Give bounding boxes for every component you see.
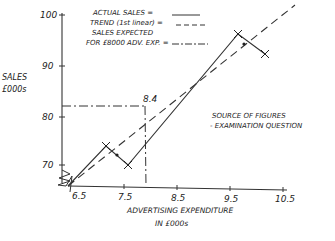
legend-actual-label: ACTUAL SALES = bbox=[92, 9, 153, 17]
hand-drawn-sales-chart: 100 90 80 70 6.5 7.5 8.5 9.5 10.5 SALES … bbox=[0, 0, 335, 241]
legend: ACTUAL SALES = TREND (1st linear) = SALE… bbox=[86, 9, 208, 47]
x-tick-label: 9.5 bbox=[224, 194, 239, 204]
x-tick-label: 10.5 bbox=[275, 194, 295, 204]
source-note: - EXAMINATION QUESTION bbox=[210, 122, 303, 130]
y-tick-label: 70 bbox=[42, 160, 54, 170]
y-tick-label: 90 bbox=[42, 61, 54, 71]
trend-midpoint bbox=[242, 42, 245, 45]
y-axis-title: SALES bbox=[2, 73, 27, 82]
y-axis-title: £000s bbox=[2, 85, 27, 94]
axis-break-icon bbox=[58, 170, 72, 192]
legend-trend-label: TREND (1st linear) = bbox=[90, 19, 163, 27]
y-tick-label: 100 bbox=[40, 10, 57, 20]
x-tick-label: 8.5 bbox=[171, 193, 186, 203]
source-note: SOURCE OF FIGURES bbox=[212, 112, 286, 120]
legend-expected-label: FOR £8000 ADV. EXP. = bbox=[86, 39, 169, 47]
expected-vertical-line bbox=[145, 106, 146, 186]
legend-expected-label: SALES EXPECTED bbox=[92, 29, 154, 37]
x-axis-title: ADVERTISING EXPENDITURE bbox=[126, 206, 234, 215]
x-tick-label: 6.5 bbox=[72, 191, 87, 201]
x-axis-title: IN £000s bbox=[155, 219, 188, 228]
chart-canvas: 100 90 80 70 6.5 7.5 8.5 9.5 10.5 SALES … bbox=[0, 0, 335, 241]
data-point-markers bbox=[102, 30, 269, 169]
y-tick-label: 80 bbox=[42, 112, 54, 122]
trend-midpoint bbox=[115, 153, 118, 156]
x-tick-label: 7.5 bbox=[118, 192, 133, 202]
actual-sales-line bbox=[68, 34, 265, 186]
expected-value-label: 8.4 bbox=[143, 94, 158, 104]
